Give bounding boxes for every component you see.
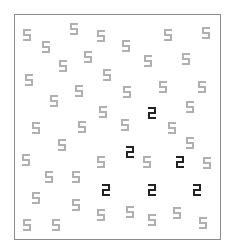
digit-5-distractor — [159, 81, 167, 93]
digit-5-distractor — [186, 137, 194, 149]
digit-5-distractor — [203, 157, 211, 169]
digit-5-distractor — [122, 40, 130, 52]
digit-5-distractor — [199, 217, 207, 229]
digit-5-distractor — [23, 29, 31, 41]
digit-5-distractor — [99, 106, 107, 118]
digit-5-distractor — [45, 171, 53, 183]
digit-5-distractor — [123, 86, 131, 98]
digit-5-distractor — [198, 81, 206, 93]
digit-5-distractor — [23, 219, 31, 231]
digit-5-distractor — [42, 41, 50, 53]
digit-5-distractor — [173, 207, 181, 219]
digit-5-distractor — [78, 121, 86, 133]
digit-5-distractor — [59, 60, 67, 72]
digit-5-distractor — [32, 192, 40, 204]
digit-5-distractor — [32, 122, 40, 134]
digit-5-distractor — [97, 156, 105, 168]
digit-5-distractor — [143, 156, 151, 168]
digit-5-distractor — [202, 27, 210, 39]
digit-2-target — [148, 184, 156, 196]
digit-5-distractor — [52, 219, 60, 231]
digit-5-distractor — [148, 214, 156, 226]
digit-5-distractor — [182, 53, 190, 65]
digit-5-distractor — [144, 55, 152, 67]
digit-5-distractor — [126, 206, 134, 218]
digit-5-distractor — [97, 30, 105, 42]
digit-5-distractor — [25, 74, 33, 86]
digit-5-distractor — [72, 171, 80, 183]
digit-5-distractor — [84, 51, 92, 63]
digit-2-target — [126, 146, 134, 158]
digit-5-distractor — [75, 85, 83, 97]
digit-2-target — [102, 184, 110, 196]
digit-5-distractor — [70, 23, 78, 35]
digit-5-distractor — [103, 69, 111, 81]
digit-5-distractor — [168, 122, 176, 134]
digit-5-distractor — [97, 209, 105, 221]
digit-5-distractor — [72, 199, 80, 211]
digit-5-distractor — [121, 119, 129, 131]
digit-5-distractor — [50, 95, 58, 107]
digit-5-distractor — [22, 154, 30, 166]
digit-5-distractor — [186, 101, 194, 113]
digit-2-target — [148, 107, 156, 119]
digit-5-distractor — [164, 29, 172, 41]
digit-2-target — [193, 184, 201, 196]
digit-2-target — [176, 156, 184, 168]
digit-5-distractor — [58, 139, 66, 151]
